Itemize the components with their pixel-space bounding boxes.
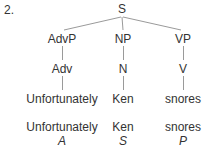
analysis-word-snores: snores xyxy=(165,120,201,134)
analysis-word-unfortunately: Unfortunately xyxy=(26,120,97,134)
leaf-snores: snores xyxy=(165,92,201,106)
function-label-adverbial: A xyxy=(58,134,66,148)
branch-s-advp xyxy=(64,17,121,30)
node-vp: VP xyxy=(175,32,191,46)
node-np: NP xyxy=(115,32,132,46)
leaf-unfortunately: Unfortunately xyxy=(26,92,97,106)
function-label-predicator: P xyxy=(179,134,187,148)
branch-s-vp xyxy=(123,17,181,30)
node-n: N xyxy=(119,62,128,76)
node-advp: AdvP xyxy=(48,32,77,46)
function-label-subject: S xyxy=(119,134,127,148)
leaf-ken: Ken xyxy=(112,92,133,106)
node-adv: Adv xyxy=(52,62,73,76)
analysis-word-ken: Ken xyxy=(112,120,133,134)
node-s: S xyxy=(118,2,126,16)
branch-s-np xyxy=(122,17,123,30)
node-v: V xyxy=(179,62,187,76)
